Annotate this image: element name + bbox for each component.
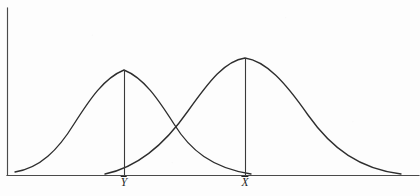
x-mean-label: X: [241, 177, 248, 189]
x-distribution-curve: [105, 58, 401, 174]
distribution-figure: Y X: [0, 0, 420, 196]
y-distribution-curve: [15, 70, 251, 174]
x-mean-label-text: X: [241, 177, 248, 189]
y-mean-label: Y: [121, 177, 128, 189]
y-mean-label-text: Y: [121, 177, 128, 189]
figure-canvas: [0, 0, 420, 196]
